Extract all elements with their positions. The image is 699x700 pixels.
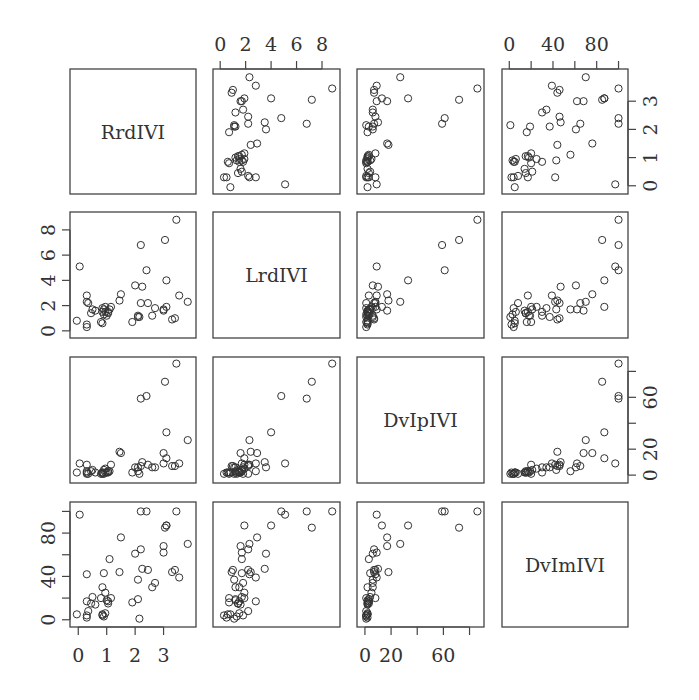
diagonal-label-panel: RrdIVI: [70, 69, 196, 194]
data-point: [441, 267, 448, 274]
data-point: [173, 360, 180, 367]
data-point: [132, 282, 139, 289]
data-point: [184, 540, 191, 547]
data-point: [239, 579, 246, 586]
data-point: [546, 123, 553, 130]
data-point: [580, 307, 587, 314]
data-point: [161, 236, 168, 243]
data-point: [589, 291, 596, 298]
data-point: [553, 157, 560, 164]
data-point: [239, 106, 246, 113]
data-point: [267, 522, 274, 529]
data-point: [397, 540, 404, 547]
data-point: [552, 298, 559, 305]
data-point: [227, 184, 234, 191]
data-point: [373, 181, 380, 188]
data-point: [106, 555, 113, 562]
scatter-panel: [502, 69, 628, 194]
data-point: [129, 599, 136, 606]
data-point: [173, 216, 180, 223]
data-point: [225, 129, 232, 136]
data-point: [364, 184, 371, 191]
data-point: [365, 555, 372, 562]
data-point: [137, 241, 144, 248]
data-point: [363, 299, 370, 306]
panel-frame: [70, 212, 196, 338]
data-point: [184, 298, 191, 305]
data-point: [601, 277, 608, 284]
data-point: [599, 236, 606, 243]
data-point: [557, 283, 564, 290]
data-point: [83, 571, 90, 578]
scatter-panel: [213, 357, 340, 483]
tick-label: 3: [639, 95, 661, 107]
data-point: [615, 360, 622, 367]
tick-label: 80: [37, 521, 59, 545]
data-point: [548, 82, 555, 89]
data-point: [76, 511, 83, 518]
data-point: [546, 313, 553, 320]
scatterplot-matrix: RrdIVILrdIVIDvIpIVIDvImIVI02468040800123…: [0, 0, 699, 700]
data-point: [303, 395, 310, 402]
data-point: [132, 550, 139, 557]
tick-label: 0: [503, 33, 515, 55]
data-point: [261, 119, 268, 126]
data-point: [580, 449, 587, 456]
tick-label: 1: [639, 152, 661, 164]
data-point: [262, 464, 269, 471]
data-point: [404, 277, 411, 284]
data-point: [522, 169, 529, 176]
data-point: [572, 282, 579, 289]
tick-label: 0: [37, 325, 59, 337]
data-point: [567, 151, 574, 158]
data-point: [252, 82, 259, 89]
data-point: [615, 216, 622, 223]
tick-label: 0: [72, 644, 84, 666]
data-point: [237, 449, 244, 456]
bottom-axis-DvIpIVI: 02060: [359, 627, 470, 666]
data-point: [161, 378, 168, 385]
tick-label: 0: [639, 469, 661, 481]
tick-label: 8: [316, 33, 328, 55]
data-point: [308, 96, 315, 103]
tick-label: 0: [639, 180, 661, 192]
scatter-panel: [70, 212, 196, 338]
data-point: [129, 318, 136, 325]
tick-label: 80: [585, 33, 609, 55]
variable-label: DvIpIVI: [383, 409, 457, 431]
data-point: [228, 89, 235, 96]
data-point: [163, 277, 170, 284]
tick-label: 0: [37, 614, 59, 626]
data-point: [397, 298, 404, 305]
scatter-panel: [502, 212, 628, 338]
data-point: [241, 522, 248, 529]
data-point: [143, 267, 150, 274]
data-point: [267, 429, 274, 436]
tick-label: 1: [101, 644, 113, 666]
data-point: [278, 115, 285, 122]
data-point: [384, 307, 391, 314]
data-point: [308, 378, 315, 385]
tick-label: 0: [359, 644, 371, 666]
tick-label: 2: [129, 644, 141, 666]
data-point: [601, 95, 608, 102]
data-point: [373, 511, 380, 518]
data-point: [252, 598, 259, 605]
scatter-panel: [213, 502, 340, 627]
data-point: [308, 524, 315, 531]
data-point: [136, 615, 143, 622]
data-point: [543, 305, 550, 312]
data-point: [455, 96, 462, 103]
data-point: [261, 565, 268, 572]
data-point: [303, 508, 310, 515]
data-point: [572, 126, 579, 133]
data-point: [245, 607, 252, 614]
diagonal-label-panel: DvIpIVI: [357, 357, 484, 483]
data-point: [136, 470, 143, 477]
data-point: [139, 283, 146, 290]
top-axis-LrdIVI: 02468: [214, 33, 328, 69]
bottom-axis-RrdIVI: 0123: [72, 627, 169, 666]
data-point: [538, 469, 545, 476]
tick-label: 6: [37, 249, 59, 261]
data-point: [83, 598, 90, 605]
